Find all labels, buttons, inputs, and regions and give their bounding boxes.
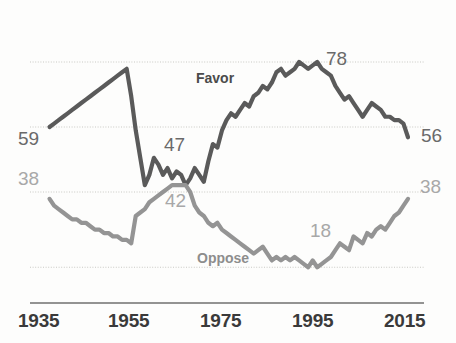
annotation-oppose-start-38: 38 [18, 168, 39, 190]
series-label-favor: Favor [196, 70, 234, 86]
x-tick-1955: 1955 [108, 310, 149, 332]
annotation-favor-cross-47: 47 [164, 134, 185, 156]
chart-plot-area [0, 0, 456, 343]
annotation-oppose-cross-42: 42 [165, 190, 186, 212]
annotation-favor-peak-78: 78 [326, 48, 347, 70]
series-label-oppose: Oppose [197, 250, 249, 266]
chart-container: 1935 1955 1975 1995 2015 Favor Oppose 59… [0, 0, 456, 343]
x-tick-1995: 1995 [292, 310, 333, 332]
x-tick-1935: 1935 [18, 310, 59, 332]
x-tick-2015: 2015 [384, 310, 425, 332]
annotation-oppose-min-18: 18 [310, 220, 331, 242]
series-lines [50, 62, 408, 267]
x-tick-1975: 1975 [200, 310, 241, 332]
annotation-favor-start-59: 59 [18, 128, 39, 150]
annotation-favor-end-56: 56 [421, 125, 442, 147]
annotation-oppose-end-38: 38 [420, 176, 441, 198]
